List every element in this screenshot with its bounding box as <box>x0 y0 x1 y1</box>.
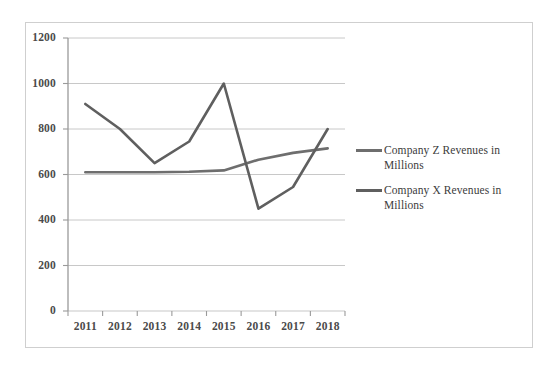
series-line-company-z <box>85 148 327 172</box>
y-tick-label-400: 400 <box>16 214 56 226</box>
legend-swatch-company-z <box>356 149 382 152</box>
line-chart-figure: 020040060080010001200 201120122013201420… <box>0 0 554 365</box>
y-tick-label-0: 0 <box>16 305 56 317</box>
y-tick-label-1000: 1000 <box>16 78 56 90</box>
gridlines-group <box>63 38 345 311</box>
x-tick-label-2018: 2018 <box>308 321 348 333</box>
y-tick-label-1200: 1200 <box>16 32 56 44</box>
y-tick-label-800: 800 <box>16 123 56 135</box>
data-series-group <box>85 84 327 209</box>
legend-label-company-z: Company Z Revenues in Millions <box>384 143 524 172</box>
y-tick-label-200: 200 <box>16 260 56 272</box>
y-tick-label-600: 600 <box>16 169 56 181</box>
legend-label-company-x: Company X Revenues in Millions <box>384 183 524 212</box>
chart-legend: Company Z Revenues in Millions Company X… <box>356 143 526 224</box>
legend-swatch-company-x <box>356 189 382 192</box>
x-axis-ticks-group <box>68 311 345 316</box>
legend-item-company-x[interactable]: Company X Revenues in Millions <box>356 183 526 212</box>
series-line-company-x <box>85 84 327 209</box>
legend-item-company-z[interactable]: Company Z Revenues in Millions <box>356 143 526 172</box>
